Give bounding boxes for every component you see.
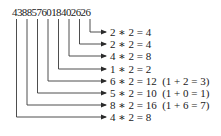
connector-row-1 xyxy=(90,19,106,32)
row-label: 1 ∗ 2 = 2 xyxy=(110,63,151,75)
connector-row-2 xyxy=(80,19,107,44)
row-label: 4 ∗ 2 = 8 xyxy=(110,50,151,62)
row-label: 4 ∗ 2 = 8 xyxy=(110,111,151,123)
row-label: 2 ∗ 2 = 4 xyxy=(110,38,151,50)
connector-row-5 xyxy=(48,19,106,81)
connector-row-8 xyxy=(17,19,107,117)
row-label: 8 ∗ 2 = 16 (1 + 6 = 7) xyxy=(110,99,209,111)
row-label: 2 ∗ 2 = 4 xyxy=(110,26,151,38)
connector-row-3 xyxy=(69,19,106,56)
row-label: 6 ∗ 2 = 12 (1 + 2 = 3) xyxy=(110,75,209,87)
row-label: 5 ∗ 2 = 10 (1 + 0 = 1) xyxy=(110,87,209,99)
luhn-doubling-diagram: 4388576018402626 2 ∗ 2 = 4 2 ∗ 2 = 4 4 ∗… xyxy=(0,0,221,136)
